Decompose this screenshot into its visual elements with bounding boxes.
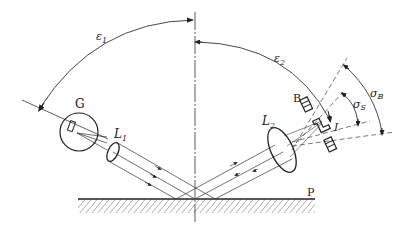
- detector-b-upper: [300, 97, 313, 112]
- detector-i-label: I: [333, 121, 339, 134]
- reflected-beam: [176, 145, 292, 199]
- sigma-b-label: σB: [370, 87, 384, 101]
- light-source-g: [60, 113, 107, 151]
- surface-p: [78, 199, 315, 213]
- incident-beam: [110, 142, 215, 199]
- detector-b-label: B: [293, 92, 301, 105]
- detector-i: [313, 116, 331, 134]
- epsilon1-angle-arc: [22, 20, 193, 139]
- epsilon2-angle-arc: [197, 42, 330, 120]
- dashed-reference-lines: [292, 58, 395, 150]
- lens-l1-label: L1: [113, 127, 127, 143]
- detector-b-lower: [324, 137, 337, 152]
- diagram-canvas: ε1 ε2 G L1 L2 B I σB σS P: [0, 0, 408, 230]
- sigma-s-label: σS: [353, 98, 367, 112]
- optical-setup-diagram: ε1 ε2 G L1 L2 B I σB σS P: [0, 0, 408, 230]
- epsilon1-label: ε1: [96, 30, 107, 45]
- lens-l2-label: L2: [261, 114, 275, 130]
- source-g-label: G: [75, 97, 85, 111]
- epsilon2-label: ε2: [274, 52, 285, 67]
- surface-p-label: P: [307, 186, 315, 199]
